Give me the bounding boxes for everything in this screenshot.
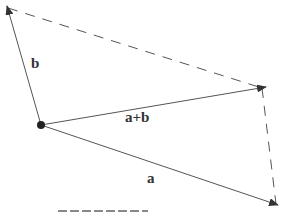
vector-diagram: b a+b a: [0, 0, 283, 217]
label-a: a: [147, 170, 155, 186]
dashed-side-top: [8, 8, 262, 88]
dashed-side-right: [262, 88, 276, 204]
label-sum: a+b: [125, 109, 149, 125]
vector-sum-arrow: [41, 87, 266, 125]
figure-caption-illegible: [58, 208, 168, 214]
vector-a-arrow: [41, 125, 278, 205]
label-b: b: [31, 55, 39, 71]
origin-point: [37, 121, 45, 129]
